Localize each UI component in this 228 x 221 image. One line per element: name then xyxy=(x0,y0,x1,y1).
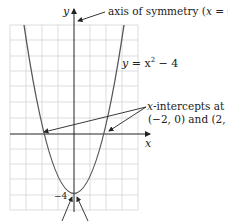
intercepts-label-line2: (−2, 0) and (2, 0) xyxy=(148,113,228,125)
intercept-arrow-left xyxy=(44,107,146,132)
y-axis-label: y xyxy=(62,5,70,18)
equation-label: y = x2 − 4 xyxy=(121,56,178,70)
x-axis-label: x xyxy=(145,137,152,150)
intercept-arrow-right xyxy=(109,107,146,131)
intercepts-label-line1: x-intercepts at xyxy=(147,100,225,112)
vertex-arrow-right xyxy=(77,197,88,221)
vertex-tick-label: −4 xyxy=(54,191,68,201)
parabola-diagram: y x axis of symmetry (x = 0) y = x2 − 4 … xyxy=(0,0,228,221)
symmetry-arrow xyxy=(78,12,105,21)
symmetry-label: axis of symmetry (x = 0) xyxy=(108,5,228,17)
